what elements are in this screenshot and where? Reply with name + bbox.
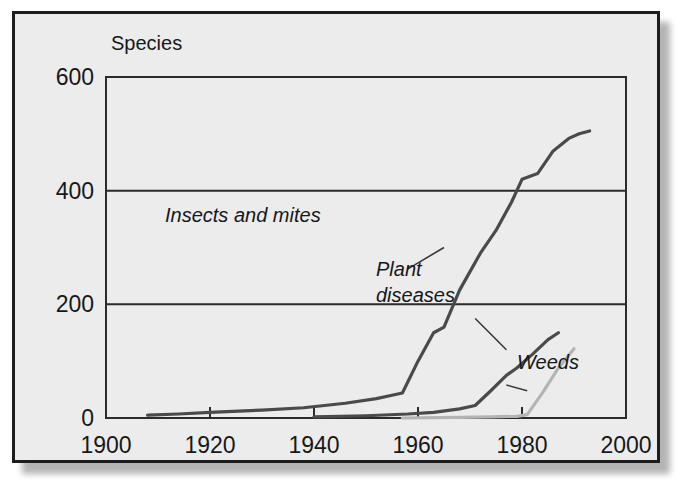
series-label-insects-and-mites: Insects and mites [165,204,321,226]
x-tick-label-1940: 1940 [288,432,339,458]
y-tick-label-600: 600 [56,64,94,90]
x-tick-label-1960: 1960 [392,432,443,458]
plot-background [15,14,657,460]
x-tick-label-1980: 1980 [496,432,547,458]
chart-surface: 190019201940196019802000 0200400600 Spec… [15,14,657,460]
series-label-plant-diseases-line2: diseases [376,284,455,306]
x-tick-label-1920: 1920 [184,432,235,458]
y-axis-title: Species [111,32,182,54]
figure-root: 190019201940196019802000 0200400600 Spec… [0,0,687,502]
figure-frame: 190019201940196019802000 0200400600 Spec… [12,11,660,463]
series-label-plant-diseases-line1: Plant [376,258,423,280]
line-chart: 190019201940196019802000 0200400600 Spec… [15,14,657,460]
x-tick-label-1900: 1900 [80,432,131,458]
series-label-weeds: Weeds [517,351,579,373]
y-tick-label-0: 0 [81,405,94,431]
x-tick-label-2000: 2000 [600,432,651,458]
y-tick-label-200: 200 [56,291,94,317]
y-tick-label-400: 400 [56,178,94,204]
